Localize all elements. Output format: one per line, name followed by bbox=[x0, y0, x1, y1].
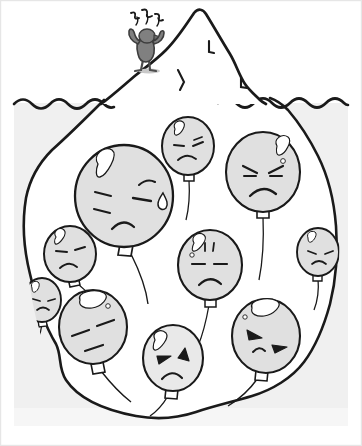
balloon-2-eye-left bbox=[174, 145, 184, 146]
figure-foot-left bbox=[135, 70, 141, 71]
balloon-4-body bbox=[44, 226, 96, 282]
balloon-3-highlight-dot bbox=[281, 159, 286, 164]
balloon-5-brow-right bbox=[213, 243, 214, 251]
balloon-1-body bbox=[75, 145, 173, 247]
figure-foot-right bbox=[150, 70, 156, 71]
balloon-4-eye-left bbox=[56, 251, 67, 252]
balloon-5-body bbox=[178, 230, 242, 300]
iceberg-emotions-illustration bbox=[0, 0, 362, 446]
balloon-8-highlight-dot bbox=[243, 315, 247, 319]
balloon-2-body bbox=[162, 117, 214, 175]
balloon-7-body bbox=[143, 325, 203, 391]
balloon-5-highlight-dot bbox=[190, 253, 194, 257]
balloon-6-highlight-dot bbox=[106, 304, 111, 309]
illustration-stage: Iceberg of emotions ~~~ waterline bbox=[0, 0, 362, 446]
